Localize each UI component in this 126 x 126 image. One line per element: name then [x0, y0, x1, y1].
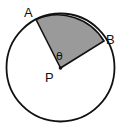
shaded-sector: [36, 15, 104, 68]
label-a: A: [24, 5, 33, 20]
label-p: P: [45, 70, 54, 85]
center-point: [59, 66, 63, 70]
label-b: B: [106, 32, 115, 47]
circle-sector-diagram: A B P θ: [0, 0, 126, 126]
label-theta: θ: [56, 50, 63, 63]
